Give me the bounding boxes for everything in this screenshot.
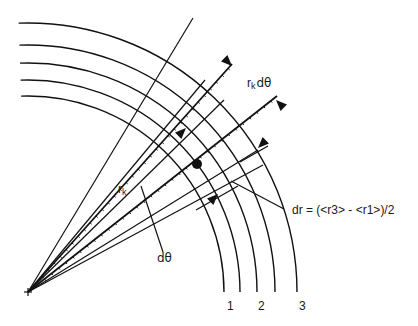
tick-mark	[129, 212, 130, 214]
rk-dtheta-arrow-bottom	[276, 100, 287, 111]
rk-arrow	[175, 128, 186, 139]
tick-mark	[228, 68, 230, 69]
tick-mark	[172, 179, 173, 181]
tick-mark	[115, 223, 116, 225]
dr-segment-outer	[240, 146, 268, 162]
arc-label-1: 1	[227, 299, 234, 313]
tick-mark	[198, 102, 200, 103]
polar-grid-diagram: rkdθ rk dθ dr = (<r3> - <r1>)/2 1 2 3	[0, 0, 418, 326]
tick-mark	[90, 223, 92, 224]
tick-mark	[144, 201, 145, 203]
tick-mark	[222, 75, 224, 76]
tick-mark	[114, 196, 116, 197]
rk-label: rk	[118, 182, 127, 197]
tick-mark	[59, 268, 60, 270]
tick-mark	[165, 184, 166, 186]
tick-mark	[60, 256, 62, 257]
tick-mark	[72, 243, 74, 244]
tick-mark	[168, 135, 170, 136]
tick-mark	[271, 101, 272, 103]
tick-mark	[138, 169, 140, 170]
tick-mark	[144, 162, 146, 163]
radial-lines	[28, 18, 277, 292]
arc-inner-2	[21, 80, 240, 292]
tick-mark	[210, 89, 212, 90]
tick-mark	[84, 229, 86, 230]
sample-point-dot	[192, 159, 202, 169]
tick-mark	[66, 250, 68, 251]
tick-mark	[94, 240, 95, 242]
tick-mark	[156, 149, 158, 150]
radial-line-3	[28, 80, 205, 292]
tick-mark	[235, 129, 236, 131]
tick-mark	[122, 218, 123, 220]
tick-mark	[214, 145, 215, 147]
tick-mark	[158, 190, 159, 192]
radial-line-7	[28, 165, 263, 292]
rk-dtheta-arrow-top	[221, 55, 232, 66]
dr-leader-line	[231, 181, 284, 209]
dr-formula-label: dr = (<r3> - <r1>)/2	[292, 203, 395, 217]
tick-mark	[243, 123, 244, 125]
tick-mark	[126, 182, 128, 183]
tick-mark	[108, 203, 110, 204]
rk-dtheta-label: rkdθ	[247, 76, 271, 91]
dtheta-label: dθ	[157, 251, 172, 265]
tick-mark	[151, 196, 152, 198]
tick-mark	[54, 263, 56, 264]
arc-label-2: 2	[258, 299, 265, 313]
tick-mark	[80, 251, 81, 253]
tick-mark	[150, 156, 152, 157]
tick-mark	[66, 262, 67, 264]
tick-mark	[186, 168, 187, 170]
tick-mark	[257, 112, 258, 114]
tick-mark	[132, 176, 134, 177]
tick-mark	[52, 273, 53, 275]
tick-mark	[204, 95, 206, 96]
tick-mark	[136, 207, 137, 209]
tick-mark	[186, 115, 188, 116]
tick-mark	[102, 209, 104, 210]
tick-mark	[101, 234, 102, 236]
tick-mark	[179, 173, 180, 175]
tick-mark	[73, 257, 74, 259]
tick-mark	[108, 229, 109, 231]
radial-line-5	[28, 96, 277, 292]
tick-mark	[250, 118, 251, 120]
tick-mark	[264, 106, 265, 108]
diagram-canvas: rkdθ rk dθ dr = (<r3> - <r1>)/2 1 2 3	[0, 0, 418, 326]
tick-mark	[216, 82, 218, 83]
tick-mark	[87, 246, 88, 248]
arc-label-3: 3	[299, 299, 306, 313]
tick-mark	[174, 129, 176, 130]
tick-mark	[228, 134, 229, 136]
tick-mark	[96, 216, 98, 217]
tick-mark	[78, 236, 80, 237]
dtheta-leader-line	[141, 186, 163, 252]
tick-mark	[200, 157, 201, 159]
tick-mark	[162, 142, 164, 143]
